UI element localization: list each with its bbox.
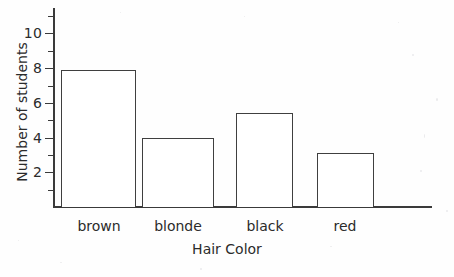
x-tick-label-blonde: blonde [137,218,219,234]
x-tick-label-red: red [304,218,386,234]
y-tick-minor-11 [48,16,54,17]
y-tick-label-4: 4 [33,131,42,145]
y-tick-minor-1 [48,190,54,191]
y-axis-line [53,8,55,208]
y-tick-minor-9 [48,51,54,52]
y-tick-4 [45,138,54,139]
y-tick-8 [45,68,54,69]
y-tick-label-6: 6 [33,96,42,110]
y-tick-label-8: 8 [33,61,42,75]
x-tick-label-brown: brown [58,218,140,234]
bar-blonde [142,138,214,207]
x-tick-label-black: black [224,218,306,234]
y-tick-label-2: 2 [33,165,42,179]
y-tick-minor-5 [48,120,54,121]
y-tick-minor-3 [48,155,54,156]
chart-page: 10 8 6 4 2 brown blonde black red Hair C… [0,0,454,277]
y-tick-2 [45,172,54,173]
bar-red [317,153,374,207]
y-tick-6 [45,103,54,104]
y-axis-title: Number of students [14,24,30,200]
bar-black [236,113,293,207]
y-tick-minor-7 [48,86,54,87]
y-tick-10 [45,33,54,34]
bar-brown [61,70,136,207]
bar-chart-plot-area: 10 8 6 4 2 brown blonde black red Hair C… [0,0,454,277]
x-axis-title: Hair Color [0,241,454,257]
